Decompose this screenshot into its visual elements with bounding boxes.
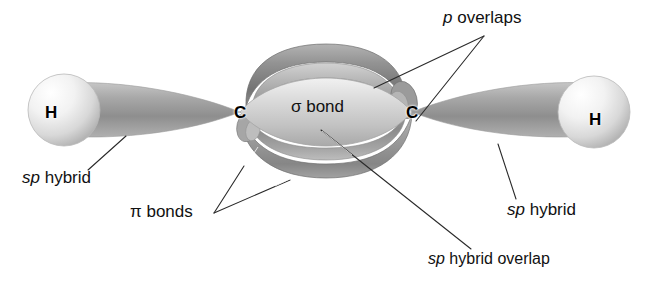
leader-p-overlaps-1 [374,36,484,88]
label-pi-bonds-rest: π bonds [130,202,193,221]
label-sp-hybrid-left-italic: sp [22,168,40,187]
label-sp-hybrid-left-rest: hybrid [40,168,91,187]
orbital-diagram-figure: H C C H p overlaps σ bond sp hybrid sp h… [0,0,650,299]
label-p-overlaps: p overlaps [443,8,521,28]
label-sp-hybrid-right-italic: sp [507,200,525,219]
label-sp-hybrid-overlap-italic: sp [428,250,445,267]
label-sp-hybrid-overlap-rest: hybrid overlap [445,250,550,267]
label-p-overlaps-rest: overlaps [452,8,521,27]
leader-sp-hybrid-right [498,144,516,199]
label-sp-hybrid-right-rest: hybrid [525,200,576,219]
atom-label-h-left: H [45,103,57,123]
leader-pi-bonds-2 [214,180,290,213]
leader-sp-hybrid-left [88,136,126,170]
left-hydrogen-sphere [28,74,100,146]
atom-label-h-right: H [589,110,601,130]
label-sp-hybrid-overlap: sp hybrid overlap [428,250,550,268]
label-sp-hybrid-right: sp hybrid [507,200,576,220]
atom-label-c-right: C [406,103,418,123]
diagram-canvas [0,0,650,299]
label-sigma-bond: σ bond [291,97,344,117]
label-sigma-bond-rest: σ bond [291,97,344,116]
atom-label-c-left: C [234,103,246,123]
label-pi-bonds: π bonds [130,202,193,222]
label-sp-hybrid-left: sp hybrid [22,168,91,188]
